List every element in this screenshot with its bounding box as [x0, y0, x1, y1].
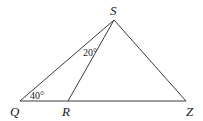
vertex-label-r: R	[61, 104, 70, 119]
angle-label-q: 40°	[30, 90, 44, 101]
segment-qs	[20, 20, 114, 101]
vertex-label-s: S	[110, 3, 117, 18]
vertex-label-z: Z	[186, 104, 194, 119]
angle-label-qsr: 20°	[83, 47, 97, 58]
segment-sr	[68, 20, 114, 101]
vertex-label-q: Q	[10, 104, 20, 119]
triangle-diagram: S Q R Z 40° 20°	[0, 0, 203, 121]
segment-sz	[114, 20, 186, 101]
